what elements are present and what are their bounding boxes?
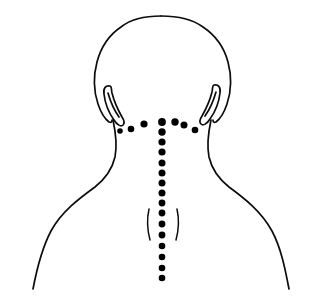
anatomy-diagram-svg: Posterior view of head, neck and shoulde…	[0, 0, 319, 300]
point-marker	[117, 128, 123, 134]
point-marker	[140, 120, 147, 127]
point-marker	[159, 254, 166, 261]
spinal-midline-points-group	[158, 128, 165, 281]
point-marker	[158, 118, 166, 126]
point-marker	[158, 148, 165, 155]
point-marker	[159, 200, 166, 207]
point-marker	[159, 180, 166, 187]
point-marker	[159, 190, 166, 197]
point-marker	[159, 221, 166, 228]
point-marker	[181, 122, 188, 129]
point-marker	[171, 118, 178, 125]
point-marker	[159, 265, 166, 272]
point-marker	[158, 128, 165, 135]
point-marker	[192, 127, 199, 134]
point-marker	[159, 232, 166, 239]
point-marker	[128, 126, 135, 133]
anatomy-figure: Posterior view of head, neck and shoulde…	[0, 0, 319, 300]
point-marker	[159, 275, 166, 282]
point-marker	[159, 160, 166, 167]
point-marker	[159, 243, 166, 250]
point-marker	[158, 138, 165, 145]
point-marker	[159, 210, 166, 217]
point-marker	[159, 170, 166, 177]
